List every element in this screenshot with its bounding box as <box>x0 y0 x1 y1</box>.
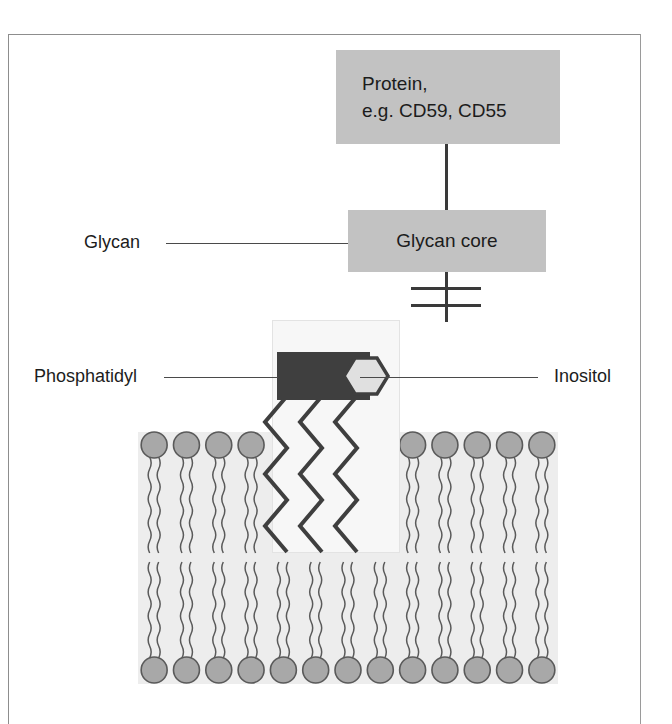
phosphatidyl-callout-label: Phosphatidyl <box>34 366 137 387</box>
linker-bar-upper <box>411 287 481 290</box>
protein-label-line2: e.g. CD59, CD55 <box>362 97 507 124</box>
glycan-core-node: Glycan core <box>348 210 546 272</box>
protein-label-line1: Protein, <box>362 70 507 97</box>
frame-border-left <box>8 34 9 724</box>
inositol-leader-line <box>360 377 538 378</box>
glycan-callout-label: Glycan <box>84 232 140 253</box>
glycan-linker-stem <box>445 272 448 322</box>
inositol-callout-label: Inositol <box>554 366 611 387</box>
linker-bar-lower <box>411 304 481 307</box>
figure-root: Protein, e.g. CD59, CD55 Glycan core Gly… <box>0 0 672 724</box>
protein-node: Protein, e.g. CD59, CD55 <box>336 50 560 144</box>
phosphatidyl-leader-line <box>164 377 278 378</box>
frame-border-right <box>640 34 641 724</box>
frame-border-top <box>8 34 641 35</box>
inositol-hexagon <box>342 352 390 400</box>
protein-to-glycan-connector <box>445 144 448 210</box>
glycan-core-label: Glycan core <box>396 230 497 252</box>
glycan-leader-line <box>166 243 348 244</box>
